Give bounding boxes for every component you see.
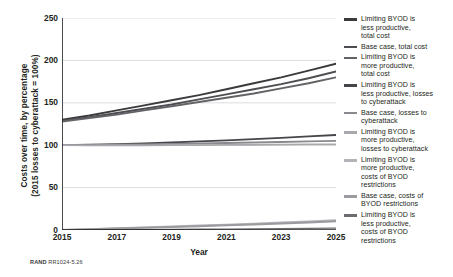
chart-svg	[62, 18, 336, 230]
series-line-0	[62, 64, 336, 120]
legend-item-label: Limiting BYOD isless productive,total co…	[361, 15, 415, 41]
legend-item-4[interactable]: Base case, losses tocyberattack	[344, 109, 452, 126]
x-tick-label: 2023	[261, 232, 301, 242]
series-lines	[62, 64, 336, 230]
legend-item-label: Limiting BYOD isless productive, lossest…	[361, 81, 433, 107]
legend-swatch-icon	[344, 18, 357, 20]
legend-item-label: Limiting BYOD isless productive,costs of…	[361, 211, 415, 245]
x-tick-label: 2017	[97, 232, 137, 242]
x-tick-label: 2015	[42, 232, 82, 242]
legend-swatch-icon	[344, 112, 357, 114]
legend-swatch-icon	[344, 84, 357, 86]
y-tick-label: 200	[32, 56, 58, 65]
series-line-5	[62, 144, 336, 145]
legend-swatch-icon	[344, 131, 357, 133]
legend-item-label: Limiting BYOD ismore productive,losses t…	[361, 128, 428, 154]
x-axis-tick-labels: 201520172019202120232025	[62, 232, 352, 246]
legend-item-3[interactable]: Limiting BYOD isless productive, lossest…	[344, 81, 452, 107]
legend-item-5[interactable]: Limiting BYOD ismore productive,losses t…	[344, 128, 452, 154]
legend-swatch-icon	[344, 195, 357, 198]
footer-code: RR1024-5.26	[48, 259, 83, 265]
x-axis-title: Year	[62, 247, 336, 257]
figure-container: Costs over time, by percentage (2015 los…	[0, 0, 453, 277]
legend-item-label: Base case, total cost	[361, 43, 427, 52]
chart-legend: Limiting BYOD isless productive,total co…	[344, 15, 452, 247]
y-tick-label: 100	[32, 141, 58, 150]
y-tick-label: 250	[32, 14, 58, 23]
legend-item-label: Base case, costs ofBYOD restrictions	[361, 192, 423, 209]
x-tick-label: 2021	[206, 232, 246, 242]
figure-footer: RAND RR1024-5.26	[30, 259, 83, 265]
legend-swatch-icon	[344, 57, 357, 59]
legend-item-2[interactable]: Limiting BYOD ismore productive,total co…	[344, 53, 452, 79]
legend-item-8[interactable]: Limiting BYOD isless productive,costs of…	[344, 211, 452, 245]
legend-item-label: Limiting BYOD ismore productive,total co…	[361, 53, 415, 79]
legend-swatch-icon	[344, 159, 357, 162]
legend-item-7[interactable]: Base case, costs ofBYOD restrictions	[344, 192, 452, 209]
legend-item-6[interactable]: Limiting BYOD ismore productive,costs of…	[344, 156, 452, 190]
legend-swatch-icon	[344, 214, 357, 216]
y-tick-label: 50	[32, 183, 58, 192]
legend-swatch-icon	[344, 46, 357, 48]
x-tick-label: 2019	[152, 232, 192, 242]
legend-item-label: Base case, losses tocyberattack	[361, 109, 427, 126]
legend-item-0[interactable]: Limiting BYOD isless productive,total co…	[344, 15, 452, 41]
legend-item-label: Limiting BYOD ismore productive,costs of…	[361, 156, 415, 190]
plot-area	[62, 18, 336, 230]
footer-brand: RAND	[30, 259, 47, 265]
legend-item-1[interactable]: Base case, total cost	[344, 43, 452, 52]
y-tick-label: 150	[32, 98, 58, 107]
